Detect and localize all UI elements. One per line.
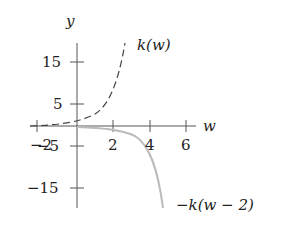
x-tick-label: 2: [108, 136, 118, 154]
x-axis-label: w: [203, 117, 216, 135]
x-tick-label: 4: [145, 136, 155, 154]
y-tick-label: 5: [53, 95, 63, 113]
y-axis-label: y: [65, 12, 75, 30]
y-tick-label: −5: [37, 137, 59, 155]
x-tick-label: 6: [181, 136, 191, 154]
curve2-label: −k(w − 2): [176, 196, 254, 214]
curve1-label: k(w): [137, 36, 171, 54]
y-tick-label: 15: [42, 53, 61, 71]
y-tick-label: −15: [27, 179, 59, 197]
plot: y w k(w) −k(w − 2) −2 2 4 6 15 5 −5 −15: [0, 0, 298, 231]
